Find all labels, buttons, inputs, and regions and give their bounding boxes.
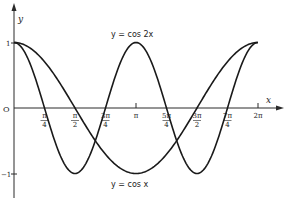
x-axis-arrow-icon: [276, 106, 284, 111]
y-tick-label-neg-one: −1: [1, 171, 11, 179]
origin-label: O: [3, 105, 10, 114]
x-tick-label-denominator: 4: [164, 121, 169, 129]
y-axis-arrow-icon: [12, 3, 17, 11]
y-axis-label: y: [17, 14, 24, 24]
x-tick-label-denominator: 4: [103, 121, 108, 129]
x-axis-label: x: [266, 95, 271, 105]
x-tick-label: π: [134, 112, 139, 120]
cosine-chart: π4π23π4π5π43π27π42π y x O 1 −1 y = cos 2…: [0, 0, 286, 200]
x-tick-label-denominator: 2: [73, 121, 77, 129]
annotation-cos-2x: y = cos 2x: [111, 30, 154, 39]
x-tick-label: π: [73, 112, 78, 120]
annotation-cos-x: y = cos x: [111, 180, 149, 189]
x-tick-label-denominator: 2: [195, 121, 199, 129]
x-tick-label-denominator: 4: [42, 121, 47, 129]
x-tick-label-denominator: 4: [225, 121, 230, 129]
x-tick-label: 2π: [253, 112, 262, 120]
y-tick-label-one: 1: [6, 40, 10, 48]
